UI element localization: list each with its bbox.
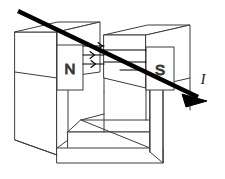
yoke-right-inner-wall-base bbox=[81, 114, 104, 120]
magnet-field-diagram: N S I bbox=[0, 0, 225, 179]
yoke-right-column-front-face bbox=[150, 82, 163, 163]
yoke-bottom-lower-face bbox=[57, 148, 163, 163]
current-label: I bbox=[200, 72, 207, 87]
north-pole-label: N bbox=[65, 60, 76, 77]
yoke-bottom-top-face bbox=[68, 120, 163, 132]
magnet-yoke bbox=[15, 22, 190, 163]
yoke-left-front-face bbox=[15, 32, 57, 155]
magnet-diagram-svg: N S I bbox=[0, 0, 225, 179]
